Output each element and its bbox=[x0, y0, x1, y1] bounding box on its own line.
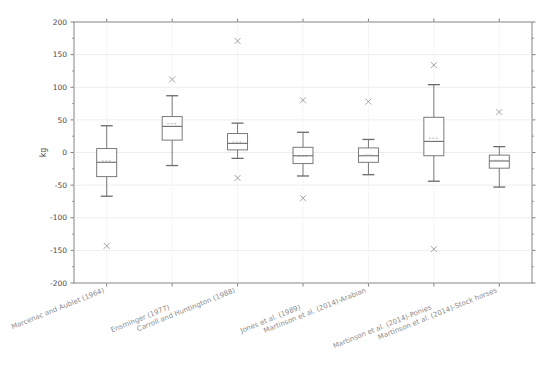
box-iqr[interactable] bbox=[424, 117, 444, 155]
y-axis-title: kg bbox=[39, 148, 48, 158]
y-axis-tick-label: 150 bbox=[53, 50, 68, 59]
y-axis-tick-label: -100 bbox=[50, 213, 67, 222]
x-axis-category-label: Martinson et al. (2014)-Ponies bbox=[332, 303, 433, 350]
y-axis-tick-label: -50 bbox=[55, 181, 67, 190]
y-axis-tick-label: 200 bbox=[53, 18, 68, 27]
y-axis-tick-label: -200 bbox=[50, 279, 67, 288]
y-axis-tick-label: 0 bbox=[62, 148, 67, 157]
y-axis-tick-label: 100 bbox=[53, 83, 68, 92]
box-iqr[interactable] bbox=[162, 117, 182, 140]
x-axis-category-label: Martinson et al. (2014)-Stock horses bbox=[377, 286, 499, 341]
y-axis-tick-label: -150 bbox=[50, 246, 67, 255]
chart-canvas: -200-150-100-50050100150200kgMarcenac an… bbox=[0, 0, 558, 366]
x-axis-category-label: Marcenac and Aublet (1964) bbox=[10, 286, 106, 331]
box-plot-figure: -200-150-100-50050100150200kgMarcenac an… bbox=[0, 0, 558, 366]
y-axis-tick-label: 50 bbox=[57, 116, 67, 125]
box-iqr[interactable] bbox=[489, 155, 509, 168]
